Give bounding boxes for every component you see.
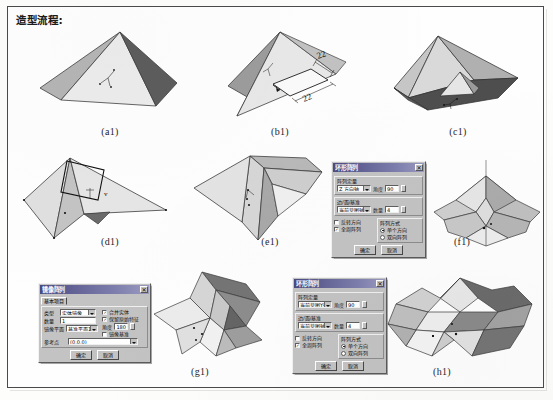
ok-button[interactable]: 确定 [70,350,92,360]
svg-text:v: v [104,190,108,198]
dialog-button-row: 确定 取消 [334,245,423,255]
close-icon[interactable]: ✕ [376,280,384,287]
angle-stepper[interactable] [401,185,406,192]
radio-label: 单个方向 [387,227,407,233]
angle-input[interactable]: 90 [385,185,399,192]
angle-input[interactable]: 180 [114,323,128,330]
count-row: 数量 1 [44,317,99,324]
axis-combo[interactable]: 当前草图轴 [298,322,332,329]
figure-label-a1: (a1) [80,126,140,137]
angle-stepper[interactable] [362,301,367,308]
count-input[interactable]: 4 [346,322,360,329]
checkbox-mirror-datum[interactable]: 镜像基准 [102,331,145,337]
axis-combo[interactable]: 当前草图轴 [337,206,371,213]
angle-row: 角度 180 [102,323,145,330]
figure-a1 [28,28,203,123]
group-array-type: 阵列方式 单个方向 双向阵列 [338,334,384,359]
type-label: 类型 [44,310,58,316]
svg-text:22: 22 [301,91,313,104]
close-icon[interactable]: ✕ [415,164,423,171]
checkbox-keep-original[interactable]: ✓ 保留原始特征 [102,316,145,322]
dialog-mirror-g1[interactable]: 镜像阵列 ✕ 基本项目 类型 实体镜像 数量 1 [38,283,151,363]
dialog-tabstrip: 基本项目 [41,297,148,305]
angle-stepper[interactable] [130,323,135,330]
close-icon[interactable]: ✕ [140,286,148,293]
checkbox-box[interactable] [334,220,339,225]
cancel-button[interactable]: 取消 [381,245,403,255]
angle-label: 角度 [334,302,344,308]
rotation-axis-combo[interactable]: Z 方向轴 [337,185,371,192]
radio-bidirectional[interactable]: 双向阵列 [341,350,381,356]
checkbox-box[interactable]: ✓ [334,227,339,232]
cancel-button[interactable]: 取消 [97,350,119,360]
count-stepper[interactable] [401,206,406,213]
dialog-titlebar[interactable]: 环形阵列 ✕ [294,279,385,288]
count-input[interactable]: 1 [60,317,96,324]
axis-row: 当前草图轴 数量 4 [337,206,420,213]
checkbox-box[interactable]: ✓ [102,310,107,315]
radio-bidirectional[interactable]: 双向阵列 [380,234,420,240]
radio-single-direction[interactable]: 单个方向 [380,227,420,233]
reference-combo[interactable]: (0,0,0) [68,338,138,345]
ok-button[interactable]: 确定 [354,245,376,255]
group-array-type-legend: 阵列方式 [380,220,420,226]
dialog-body: 阵列定量 当前草图Y轴 角度 90 边/面/基准 当前草图轴 数量 4 [293,289,386,373]
checkbox-full-circle[interactable]: ✓ 全周阵列 [334,226,374,232]
plane-combo[interactable]: 基准平面1 [66,325,98,332]
dialog-title: 环形阵列 [335,163,358,172]
rotation-axis-combo[interactable]: 当前草图Y轴 [298,301,332,308]
dialog-polar-array-f1[interactable]: 环形阵列 ✕ 阵列定量 Z 方向轴 角度 90 边/面/基准 当前草图轴 数量 … [331,161,426,258]
group-direction: 阵列定量 当前草图Y轴 角度 90 [295,292,384,311]
mirror-fields-right: ✓ 合并实体 ✓ 保留原始特征 角度 180 [102,308,145,337]
count-stepper[interactable] [362,322,367,329]
axis-row: 当前草图轴 数量 4 [298,322,381,329]
type-combo[interactable]: 实体镜像 [60,309,96,316]
radio-box[interactable] [341,344,346,349]
checkbox-full-circle[interactable]: ✓ 全周阵列 [295,342,335,348]
checkbox-column: 反转方向 ✓ 全周阵列 [295,334,335,359]
checkbox-box[interactable]: ✓ [102,317,107,322]
figure-label-g1: (g1) [170,366,230,377]
group-axis-legend: 边/面/基准 [337,199,420,205]
checkbox-label: 保留原始特征 [109,316,139,322]
radio-box[interactable] [380,235,385,240]
radio-box[interactable] [380,228,385,233]
dialog-titlebar[interactable]: 镜像阵列 ✕ [40,285,149,294]
checkbox-box[interactable]: ✓ [295,343,300,348]
count-label: 数量 [373,207,383,213]
figure-d1: v [18,152,193,244]
figure-label-f1: (f1) [432,236,492,247]
checkbox-column: 反转方向 ✓ 全周阵列 [334,218,374,243]
dialog-polar-array-h1[interactable]: 环形阵列 ✕ 阵列定量 当前草图Y轴 角度 90 边/面/基准 当前草图轴 数量… [292,277,387,374]
checkbox-merge[interactable]: ✓ 合并实体 [102,309,145,315]
cancel-button[interactable]: 取消 [342,361,364,371]
count-label: 数量 [44,318,58,324]
figure-e1 [186,152,336,244]
figure-label-c1: (c1) [428,126,488,137]
checkbox-reverse[interactable]: 反转方向 [334,219,374,225]
reference-label: 参考点 [44,339,66,345]
dialog-button-row: 确定 取消 [295,361,384,371]
dialog-title: 镜像阵列 [42,285,65,294]
checkbox-box[interactable] [102,332,107,337]
mirror-fields-left: 类型 实体镜像 数量 1 镜像平面 基准平面1 [44,308,99,337]
scanned-page: 造型流程: (a1) [0,0,553,400]
ok-button[interactable]: 确定 [315,361,337,371]
count-label: 数量 [334,323,344,329]
group-array-type-legend: 阵列方式 [341,336,381,342]
checkbox-box[interactable] [295,336,300,341]
dialog-titlebar[interactable]: 环形阵列 ✕ [333,163,424,172]
type-row: 类型 实体镜像 [44,309,99,316]
dialog-button-row: 确定 取消 [41,350,148,360]
count-input[interactable]: 4 [385,206,399,213]
radio-single-direction[interactable]: 单个方向 [341,343,381,349]
dialog-body: 基本项目 类型 实体镜像 数量 1 镜像平面 [39,295,150,362]
radio-label: 双向阵列 [348,350,368,356]
group-direction: 阵列定量 Z 方向轴 角度 90 [334,176,423,195]
direction-row: Z 方向轴 角度 90 [337,185,420,192]
angle-input[interactable]: 90 [346,301,360,308]
checkbox-reverse[interactable]: 反转方向 [295,335,335,341]
tab-basic[interactable]: 基本项目 [41,297,67,305]
radio-box[interactable] [341,351,346,356]
figure-label-h1: (h1) [412,366,472,377]
